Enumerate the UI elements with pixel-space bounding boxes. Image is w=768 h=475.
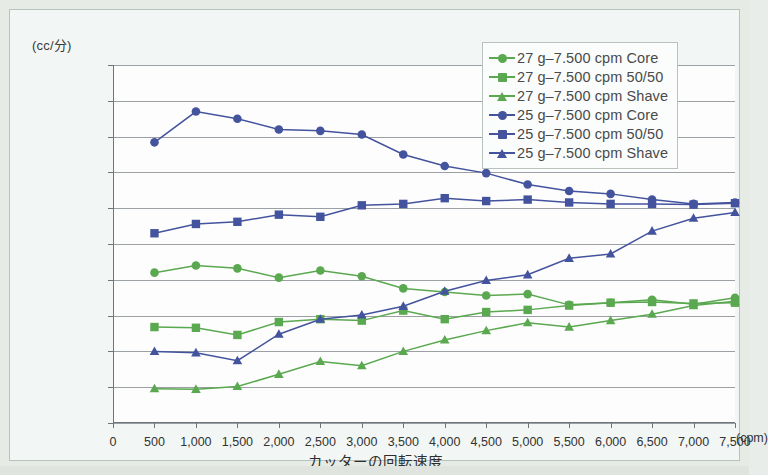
data-point [606,200,614,208]
legend-item-3[interactable]: 25 g–7.500 cpm Core [489,105,668,124]
data-point [150,138,159,147]
data-point [730,207,740,216]
y-axis-unit-label: (cc/分) [32,35,71,54]
legend-item-0[interactable]: 27 g–7.500 cpm Core [489,48,668,67]
x-tick-label: 2,500 [305,435,336,449]
data-point [275,125,284,134]
data-point [399,200,407,208]
legend: 27 g–7.500 cpm Core27 g–7.500 cpm 50/502… [482,42,678,169]
data-point [233,331,241,339]
legend-label: 27 g–7.500 cpm Core [515,50,658,66]
x-tick-mark [362,423,363,428]
square-marker-icon [489,70,515,84]
x-tick-label: 6,000 [595,435,626,449]
data-point [233,114,242,123]
x-tick-mark [611,423,612,428]
series-line [154,301,735,389]
x-tick-label: 1,000 [180,435,211,449]
data-point [192,324,200,332]
x-tick-mark [569,423,570,428]
data-point [316,127,325,136]
data-point [606,190,615,199]
data-point [565,301,573,309]
data-point [606,299,614,307]
data-point [482,197,490,205]
data-point [275,318,283,326]
series-1 [150,298,739,339]
x-tick-mark [694,423,695,428]
data-point [565,198,573,206]
x-tick-label: 7,000 [678,435,709,449]
data-point [233,218,241,226]
legend-item-4[interactable]: 25 g–7.500 cpm 50/50 [489,124,668,143]
x-tick-label: 1,500 [222,435,253,449]
x-tick-mark [652,423,653,428]
x-tick-mark [154,423,155,428]
x-tick-mark [113,423,114,428]
data-point [399,284,408,293]
legend-symbol [498,73,507,82]
x-axis-unit-label: (cpm) [736,431,768,445]
x-tick-mark [445,423,446,428]
legend-label: 27 g–7.500 cpm Shave [515,88,668,104]
figure-frame: (cc/分) 0.000.501.001.502.002.503.003.504… [9,9,740,461]
data-point [192,107,201,116]
x-tick-label: 0 [110,435,117,449]
x-tick-label: 6,500 [636,435,667,449]
legend-symbol [497,92,507,101]
legend-symbol [498,130,507,139]
gridline-y [113,423,735,424]
data-point [606,249,616,258]
legend-symbol [498,111,507,120]
legend-item-5[interactable]: 25 g–7.500 cpm Shave [489,143,668,162]
x-tick-mark [196,423,197,428]
data-point [316,213,324,221]
data-point [233,264,242,273]
data-point [648,200,656,208]
data-point [275,210,283,218]
legend-item-1[interactable]: 27 g–7.500 cpm 50/50 [489,67,668,86]
data-point [523,195,531,203]
data-point [523,180,532,189]
x-tick-mark [735,423,736,428]
data-point [523,290,532,299]
x-tick-mark [403,423,404,428]
data-point [482,291,491,300]
data-point [441,315,449,323]
data-point [689,200,697,208]
x-tick-label: 5,000 [512,435,543,449]
data-point [731,199,739,207]
data-point [440,162,449,171]
legend-symbol [497,149,507,158]
data-point [316,356,326,365]
data-point [358,201,366,209]
data-point [648,298,656,306]
circle-marker-icon [489,51,515,65]
x-tick-mark [279,423,280,428]
data-point [441,194,449,202]
legend-item-2[interactable]: 27 g–7.500 cpm Shave [489,86,668,105]
legend-label: 25 g–7.500 cpm 50/50 [515,126,663,142]
data-point [150,229,158,237]
x-tick-label: 3,500 [388,435,419,449]
data-point [150,268,159,277]
data-point [316,266,325,275]
data-point [150,384,160,393]
square-marker-icon [489,127,515,141]
legend-label: 25 g–7.500 cpm Core [515,107,658,123]
data-point [358,130,367,139]
circle-marker-icon [489,108,515,122]
data-point [192,220,200,228]
data-point [150,323,158,331]
x-tick-mark [320,423,321,428]
data-point [565,187,574,196]
scan-bottom-strip [0,466,749,475]
data-point [523,306,531,314]
series-2 [150,296,740,393]
x-tick-label: 4,000 [429,435,460,449]
x-tick-mark [237,423,238,428]
x-tick-label: 500 [144,435,165,449]
legend-label: 27 g–7.500 cpm 50/50 [515,69,663,85]
triangle-marker-icon [489,146,515,160]
